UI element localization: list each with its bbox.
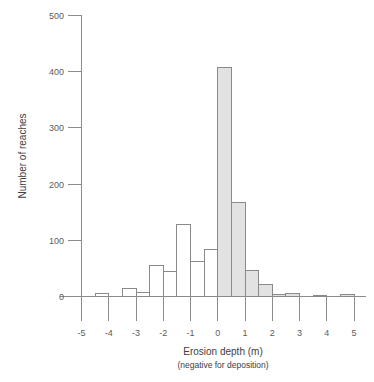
x-tick-label: -4 (105, 328, 113, 338)
x-tick-label: -5 (77, 328, 85, 338)
histogram-bar (150, 266, 164, 297)
histogram-bar (136, 292, 150, 297)
histogram-bar (177, 225, 191, 297)
histogram-bar (204, 249, 218, 296)
histogram-bar (245, 270, 259, 296)
x-tick-label: -2 (159, 328, 167, 338)
x-tick-label: 1 (242, 328, 247, 338)
y-axis-title: Number of reaches (17, 113, 28, 198)
histogram-bars (95, 67, 354, 296)
x-axis-ticks (82, 297, 355, 321)
y-axis-ticks (68, 16, 82, 297)
x-axis-title: Erosion depth (m) (183, 346, 262, 357)
histogram-bar (95, 293, 109, 296)
y-tick-label: 300 (49, 123, 64, 133)
histogram-bar (286, 293, 300, 296)
chart-svg: 500 400 300 200 100 0 -5-4-3-2-1012345 E… (0, 0, 374, 382)
x-tick-label: -3 (132, 328, 140, 338)
x-tick-label: 0 (215, 328, 220, 338)
x-axis-tick-labels: -5-4-3-2-1012345 (77, 328, 356, 338)
x-tick-label: 2 (270, 328, 275, 338)
x-tick-label: -1 (186, 328, 194, 338)
y-axis-tick-labels: 500 400 300 200 100 0 (49, 11, 64, 302)
histogram-bar (218, 67, 232, 296)
histogram-bar (122, 289, 136, 297)
y-tick-label: 400 (49, 67, 64, 77)
x-tick-label: 3 (297, 328, 302, 338)
histogram-bar (272, 295, 286, 297)
histogram-bar (191, 262, 205, 297)
x-tick-label: 5 (351, 328, 356, 338)
y-tick-label: 200 (49, 180, 64, 190)
x-tick-label: 4 (324, 328, 329, 338)
histogram-bar (259, 284, 273, 296)
histogram-figure: 500 400 300 200 100 0 -5-4-3-2-1012345 E… (0, 0, 374, 382)
y-tick-label: 0 (59, 292, 64, 302)
y-tick-label: 100 (49, 236, 64, 246)
x-axis-subtitle: (negative for deposition) (177, 360, 268, 370)
histogram-bar (313, 295, 327, 296)
histogram-bar (163, 271, 177, 296)
histogram-bar (340, 295, 354, 297)
y-tick-label: 500 (49, 11, 64, 21)
histogram-bar (231, 203, 245, 297)
